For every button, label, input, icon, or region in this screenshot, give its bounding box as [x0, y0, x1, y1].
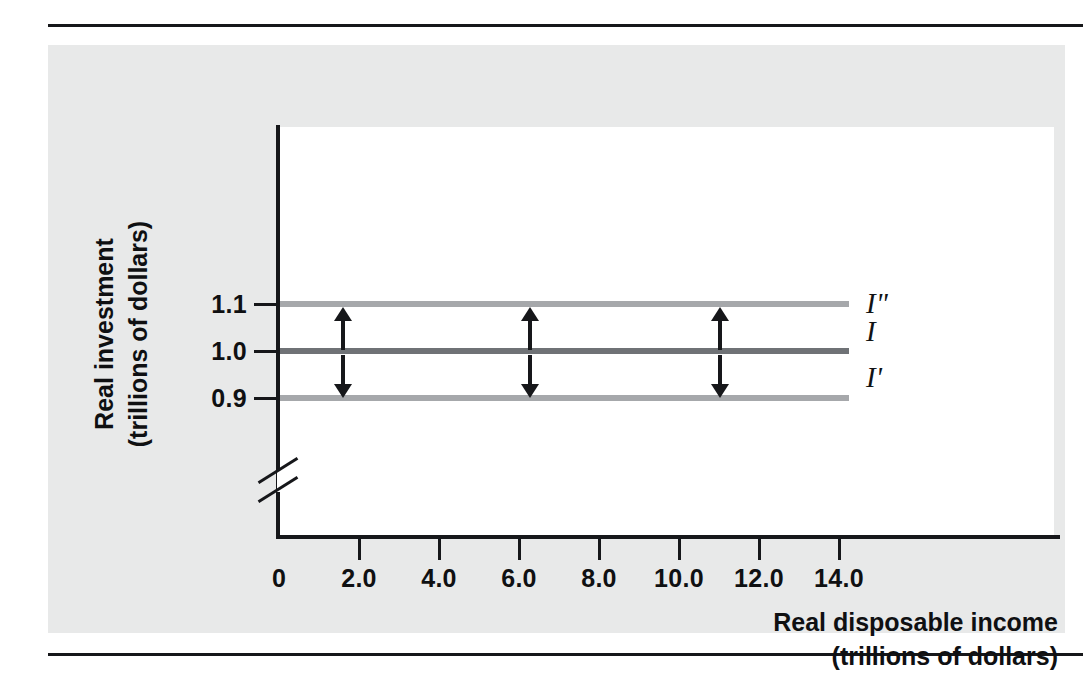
arrow-shaft — [718, 355, 722, 387]
shift-down-arrow-2 — [518, 355, 542, 400]
curve-label-mid: I — [866, 315, 876, 348]
arrow-shaft — [528, 355, 532, 387]
arrowhead-icon — [521, 384, 539, 398]
x-tick-label-5: 8.0 — [554, 564, 644, 593]
x-tick-mark-1 — [358, 538, 361, 560]
x-tick-mark-5 — [678, 538, 681, 560]
arrowhead-icon — [711, 384, 729, 398]
x-tick-mark-6 — [758, 538, 761, 560]
y-axis-title-line2: (trillions of dollars) — [121, 169, 155, 499]
x-axis-title-line1: Real disposable income — [608, 605, 1058, 639]
y-axis-title-line1: Real investment — [87, 169, 121, 499]
shift-down-arrow-1 — [331, 355, 355, 400]
y-tick-label-3: 0.9 — [187, 384, 247, 413]
investment-line-lower — [279, 395, 849, 401]
shift-down-arrow-3 — [708, 355, 732, 400]
shift-up-arrow-3 — [708, 307, 732, 352]
x-tick-mark-3 — [518, 538, 521, 560]
y-tick-mark-1 — [254, 303, 279, 306]
y-axis-title: Real investment (trillions of dollars) — [87, 169, 155, 499]
y-tick-label-2: 1.0 — [187, 337, 247, 366]
arrow-shaft — [528, 318, 532, 350]
x-tick-mark-4 — [598, 538, 601, 560]
investment-line-mid — [279, 348, 849, 354]
investment-line-upper — [279, 301, 849, 307]
arrow-shaft — [718, 318, 722, 350]
y-tick-mark-3 — [254, 397, 279, 400]
x-tick-label-3: 4.0 — [394, 564, 484, 593]
y-tick-mark-2 — [254, 350, 279, 353]
figure-panel: 1.1 1.0 0.9 0 2.0 4.0 6.0 8.0 10.0 12.0 … — [48, 45, 1065, 633]
arrow-shaft — [341, 355, 345, 387]
plot-area — [279, 127, 1054, 537]
shift-up-arrow-2 — [518, 307, 542, 352]
x-tick-mark-7 — [838, 538, 841, 560]
x-tick-label-2: 2.0 — [314, 564, 404, 593]
x-axis-title-line2: (trillions of dollars) — [608, 639, 1058, 673]
x-tick-label-6: 10.0 — [634, 564, 724, 593]
x-tick-label-8: 14.0 — [794, 564, 884, 593]
x-tick-label-7: 12.0 — [714, 564, 804, 593]
x-tick-label-1: 0 — [234, 564, 324, 593]
arrowhead-icon — [334, 384, 352, 398]
x-axis-line — [276, 535, 1060, 539]
x-axis-title: Real disposable income (trillions of dol… — [608, 605, 1058, 673]
arrow-shaft — [341, 318, 345, 350]
y-tick-label-1: 1.1 — [187, 290, 247, 319]
shift-up-arrow-1 — [331, 307, 355, 352]
x-tick-label-4: 6.0 — [474, 564, 564, 593]
curve-label-lower: I' — [866, 361, 882, 394]
figure-top-rule — [48, 24, 1083, 27]
x-tick-mark-2 — [438, 538, 441, 560]
